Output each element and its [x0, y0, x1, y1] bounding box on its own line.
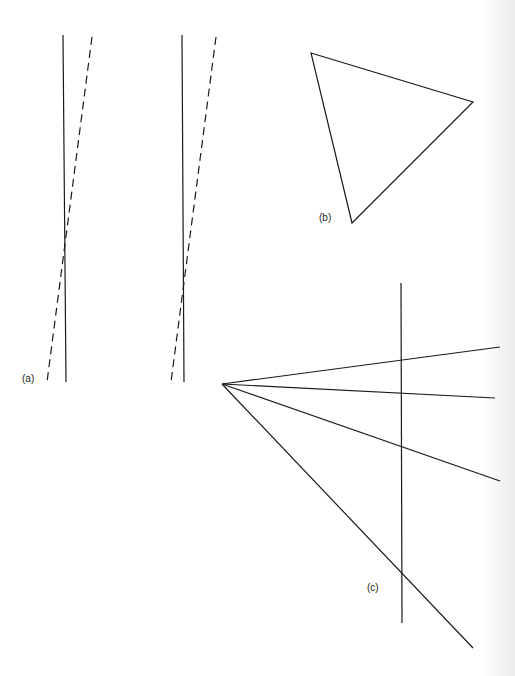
figure-svg: [0, 0, 515, 676]
triangle: [311, 53, 473, 223]
solid-line-1: [63, 35, 66, 382]
panel-c-ray-fan: [222, 283, 500, 648]
panel-a-label: (a): [22, 373, 34, 384]
ray-4: [222, 384, 473, 648]
ray-2: [222, 384, 495, 398]
solid-line-2: [182, 35, 184, 382]
figure-canvas: (a) (b) (c): [0, 0, 515, 676]
panel-b-label: (b): [319, 212, 331, 223]
panel-c-label: (c): [367, 582, 379, 593]
panel-b-triangle: [311, 53, 473, 223]
ray-1: [222, 347, 500, 384]
ray-3: [222, 384, 500, 481]
panel-a-parallel-lines: [47, 35, 216, 382]
dashed-line-1: [47, 37, 92, 382]
dashed-line-2: [171, 37, 216, 382]
